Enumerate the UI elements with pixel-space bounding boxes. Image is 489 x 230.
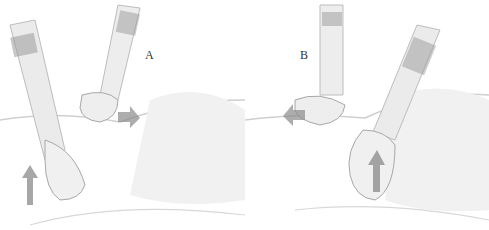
- panel-a-drawing: [0, 0, 245, 230]
- panel-a: A: [0, 0, 245, 230]
- panel-b: B: [245, 0, 489, 230]
- right-arrow-icon: [118, 106, 140, 128]
- panel-b-drawing: [245, 0, 489, 230]
- illustration-canvas: A B: [0, 0, 489, 230]
- panel-label-b: B: [300, 48, 308, 63]
- up-arrow-icon: [22, 165, 38, 205]
- panel-label-a: A: [145, 48, 154, 63]
